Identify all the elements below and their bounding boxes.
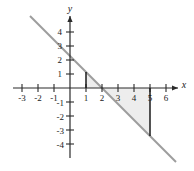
x-tick-label--2: -2 (34, 93, 42, 103)
x-tick-label--3: -3 (18, 93, 26, 103)
y-tick-label--2: -2 (57, 112, 65, 122)
x-tick-label-6: 6 (164, 93, 169, 103)
y-tick-label-3: 3 (58, 41, 63, 51)
y-tick-label--1: -1 (57, 98, 65, 108)
y-tick-label--4: -4 (57, 140, 65, 150)
coordinate-plot: -3 -2 -1 1 2 3 4 5 6 4 3 2 1 -1 -2 -3 -4… (0, 0, 194, 171)
x-axis-arrow-icon (172, 85, 178, 90)
y-tick-label-1: 1 (58, 69, 63, 79)
function-line-group (30, 16, 176, 162)
x-tick-label-5: 5 (148, 93, 153, 103)
y-axis-arrow-icon (67, 16, 72, 22)
y-tick-label-2: 2 (58, 55, 63, 65)
y-axis-group (66, 16, 74, 158)
function-line (30, 16, 176, 162)
x-tick-label-1: 1 (84, 93, 89, 103)
x-tick-label-4: 4 (132, 93, 137, 103)
x-axis-label: x (181, 79, 187, 90)
y-tick-label--3: -3 (57, 126, 65, 136)
y-tick-label-4: 4 (58, 27, 63, 37)
x-tick-label-3: 3 (116, 93, 121, 103)
y-axis-label: y (67, 3, 73, 14)
figure-container: -3 -2 -1 1 2 3 4 5 6 4 3 2 1 -1 -2 -3 -4… (0, 0, 194, 171)
x-tick-label-2: 2 (100, 93, 105, 103)
